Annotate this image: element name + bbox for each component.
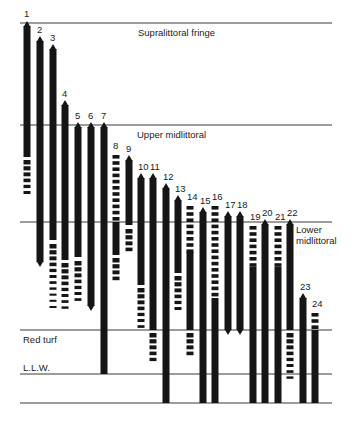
species-number-2: 2 xyxy=(37,24,42,35)
species-20 xyxy=(262,219,269,403)
species-7 xyxy=(101,122,108,374)
species-number-6: 6 xyxy=(88,110,93,121)
dash-segment xyxy=(275,226,282,230)
dash-segment xyxy=(75,261,82,266)
dash-segment xyxy=(113,264,120,268)
species-number-23: 23 xyxy=(300,281,311,292)
bar-top-cap xyxy=(300,293,307,299)
dash-segment xyxy=(175,288,182,292)
dash-segment xyxy=(212,218,219,222)
dash-segment xyxy=(113,217,120,221)
solid-range-bar xyxy=(37,41,44,262)
dash-segment xyxy=(75,267,82,271)
dash-segment xyxy=(287,364,294,367)
dash-segment xyxy=(126,235,133,239)
solid-range-bar xyxy=(50,49,57,240)
solid-range-bar xyxy=(262,224,269,403)
dash-segment xyxy=(187,212,194,216)
dash-segment xyxy=(138,288,145,293)
bar-bottom-cap xyxy=(225,329,232,335)
dash-segment xyxy=(138,294,145,298)
dash-segment xyxy=(75,273,82,277)
solid-range-bar xyxy=(88,127,95,306)
dash-segment xyxy=(275,257,282,261)
species-19 xyxy=(250,226,257,403)
dash-segment xyxy=(75,292,82,295)
dash-segment xyxy=(250,257,257,261)
species-5 xyxy=(75,122,82,301)
dash-segment xyxy=(212,293,219,297)
species-number-11: 11 xyxy=(150,161,160,172)
dash-segment xyxy=(113,270,120,274)
species-number-4: 4 xyxy=(62,88,67,99)
species-number-9: 9 xyxy=(126,143,131,154)
dash-segment xyxy=(50,294,57,296)
dash-segment xyxy=(50,244,57,249)
dash-segment xyxy=(275,238,282,242)
solid-range-bar xyxy=(250,267,257,403)
species-11 xyxy=(150,173,157,361)
bar-top-cap xyxy=(237,211,244,217)
dash-segment xyxy=(287,352,294,356)
species-number-8: 8 xyxy=(113,140,118,151)
dash-segment xyxy=(175,301,182,304)
species-number-15: 15 xyxy=(200,195,211,206)
dash-segment xyxy=(212,212,219,216)
species-number-13: 13 xyxy=(175,183,186,194)
zone-label-red-turf: Red turf xyxy=(23,334,57,345)
dash-segment xyxy=(126,248,133,252)
dash-segment xyxy=(187,243,194,247)
dash-segment xyxy=(275,245,282,249)
bar-bottom-cap xyxy=(88,305,95,311)
bar-top-cap xyxy=(163,183,170,189)
zonation-chart-svg: Supralittoral fringe Upper midlittoral L… xyxy=(0,0,360,423)
species-number-5: 5 xyxy=(75,110,80,121)
dash-segment xyxy=(275,251,282,255)
solid-range-bar xyxy=(212,298,219,403)
dash-segment xyxy=(24,172,31,176)
dash-segment xyxy=(113,180,120,184)
species-12 xyxy=(163,183,170,403)
bar-bottom-cap xyxy=(37,261,44,267)
dash-segment xyxy=(175,307,182,310)
dash-segment xyxy=(150,339,157,343)
dash-segment xyxy=(24,191,31,194)
dash-segment xyxy=(113,192,120,196)
solid-range-bar xyxy=(126,160,133,225)
dash-segment xyxy=(50,275,57,278)
species-number-20: 20 xyxy=(262,207,273,218)
solid-range-bar xyxy=(113,222,120,255)
species-16 xyxy=(212,206,219,403)
solid-range-bar xyxy=(200,212,207,403)
dash-segment xyxy=(138,307,145,311)
dash-segment xyxy=(24,179,31,183)
solid-range-bar xyxy=(62,105,69,260)
dash-segment xyxy=(62,269,69,273)
solid-range-bar xyxy=(275,267,282,403)
species-3 xyxy=(50,44,57,308)
solid-range-bar xyxy=(163,188,170,403)
species-4 xyxy=(62,100,69,309)
dash-segment xyxy=(50,281,57,284)
species-15 xyxy=(200,207,207,403)
dash-segment xyxy=(24,160,31,165)
species-number-19: 19 xyxy=(250,211,261,222)
solid-range-bar xyxy=(287,224,294,330)
dash-segment xyxy=(113,155,120,159)
dash-segment xyxy=(212,243,219,247)
dash-segment xyxy=(212,256,219,260)
dash-segment xyxy=(312,319,319,323)
dash-segment xyxy=(50,250,57,254)
dash-segment xyxy=(150,358,157,361)
dash-segment xyxy=(150,333,157,338)
species-number-16: 16 xyxy=(212,191,223,202)
dash-segment xyxy=(250,251,257,255)
dash-segment xyxy=(175,295,182,299)
solid-range-bar xyxy=(150,178,157,330)
dash-segment xyxy=(287,345,294,349)
dash-segment xyxy=(113,186,120,190)
dash-segment xyxy=(212,206,219,210)
dash-segment xyxy=(50,263,57,267)
dash-segment xyxy=(175,276,182,281)
dash-segment xyxy=(50,287,57,289)
